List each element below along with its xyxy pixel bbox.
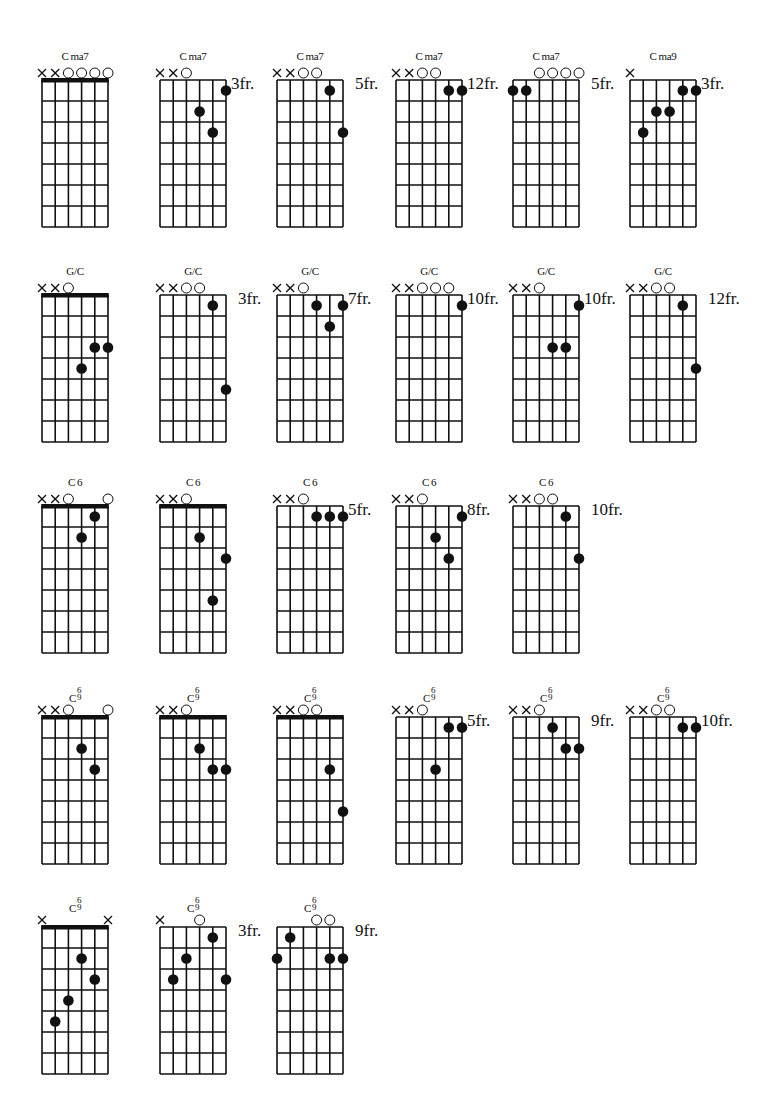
chord-diagram: Cma712fr. (396, 50, 513, 250)
muted-string-icon (286, 706, 294, 714)
chord-title: C6 (42, 476, 108, 488)
chord-extension-stacked: 69 (548, 687, 552, 701)
finger-dot (338, 511, 349, 522)
nut-bar (41, 293, 109, 298)
fretboard-grid (622, 701, 708, 870)
open-string-icon (534, 705, 544, 715)
finger-dot (430, 764, 441, 775)
muted-string-icon (392, 69, 400, 77)
finger-dot (678, 300, 689, 311)
open-string-icon (181, 705, 191, 715)
fret-position-label: 3fr. (701, 74, 724, 94)
chord-title: Cma7 (160, 50, 226, 62)
muted-string-icon (639, 284, 647, 292)
chord-title: Cma7 (277, 50, 343, 62)
chord-diagram: Cma75fr. (513, 50, 630, 250)
chord-extension-stacked: 69 (195, 687, 199, 701)
muted-string-icon (405, 284, 413, 292)
chord-diagram: C693fr. (160, 897, 277, 1097)
finger-dot (90, 342, 101, 353)
chord-title: C6 (513, 476, 579, 488)
chord-title: G/C (277, 265, 343, 277)
finger-dot (76, 363, 87, 374)
muted-string-icon (405, 69, 413, 77)
fret-position-label: 3fr. (238, 289, 261, 309)
fretboard-grid (388, 490, 474, 659)
fret-position-label: 3fr. (238, 921, 261, 941)
open-string-icon (195, 915, 205, 925)
finger-dot (221, 553, 232, 564)
muted-string-icon (156, 495, 164, 503)
muted-string-icon (156, 916, 164, 924)
finger-dot (285, 932, 296, 943)
muted-string-icon (509, 284, 517, 292)
muted-string-icon (286, 69, 294, 77)
finger-dot (574, 553, 585, 564)
finger-dot (325, 85, 336, 96)
nut-bar (159, 504, 227, 509)
open-string-icon (417, 283, 427, 293)
finger-dot (221, 85, 232, 96)
finger-dot (691, 722, 702, 733)
finger-dot (194, 743, 205, 754)
open-string-icon (548, 68, 558, 78)
open-string-icon (417, 68, 427, 78)
muted-string-icon (156, 706, 164, 714)
chord-quality: ma7 (542, 50, 560, 62)
open-string-icon (312, 915, 322, 925)
fret-position-label: 10fr. (584, 289, 616, 309)
chord-quality: 6 (312, 476, 317, 488)
chord-diagram: G/C12fr. (630, 265, 747, 465)
fretboard-grid (505, 279, 591, 448)
chord-diagram: C699fr. (277, 897, 394, 1097)
chord-title: C6 (396, 476, 462, 488)
chord-diagram: C6 (42, 476, 159, 676)
muted-string-icon (169, 706, 177, 714)
fretboard-grid (505, 64, 591, 233)
chord-quality: ma7 (189, 50, 207, 62)
chord-root: C (539, 476, 546, 488)
finger-dot (168, 974, 179, 985)
chord-diagram: C6 (160, 476, 277, 676)
muted-string-icon (273, 495, 281, 503)
open-string-icon (651, 705, 661, 715)
chord-diagram: C695fr. (396, 687, 513, 887)
finger-dot (444, 85, 455, 96)
fret-position-label: 10fr. (591, 500, 623, 520)
finger-dot (444, 553, 455, 564)
chord-quality: ma7 (71, 50, 89, 62)
chord-diagram: Cma93fr. (630, 50, 747, 250)
finger-dot (325, 764, 336, 775)
finger-dot (561, 342, 572, 353)
finger-dot (678, 85, 689, 96)
fretboard-grid (269, 64, 355, 233)
finger-dot (508, 85, 519, 96)
open-string-icon (325, 915, 335, 925)
open-string-icon (63, 68, 73, 78)
finger-dot (208, 764, 219, 775)
fret-position-label: 12fr. (467, 74, 499, 94)
fretboard-grid (152, 490, 238, 659)
finger-dot (574, 300, 585, 311)
chord-quality: ma9 (659, 50, 677, 62)
fretboard-grid (152, 64, 238, 233)
chord-title: Cma7 (396, 50, 462, 62)
fret-position-label: 10fr. (701, 711, 733, 731)
chord-title: C6 (160, 476, 226, 488)
fretboard-grid (388, 701, 474, 870)
open-string-icon (298, 283, 308, 293)
open-string-icon (651, 283, 661, 293)
fret-position-label: 5fr. (348, 500, 371, 520)
finger-dot (90, 974, 101, 985)
fret-position-label: 9fr. (591, 711, 614, 731)
fretboard-grid (269, 279, 355, 448)
muted-string-icon (51, 495, 59, 503)
open-string-icon (103, 494, 113, 504)
chord-quality: 6 (548, 476, 553, 488)
finger-dot (90, 511, 101, 522)
chord-quality: 6 (431, 476, 436, 488)
chord-diagram: G/C (42, 265, 159, 465)
chord-diagram: G/C10fr. (396, 265, 513, 465)
fret-position-label: 12fr. (708, 289, 740, 309)
open-string-icon (298, 705, 308, 715)
